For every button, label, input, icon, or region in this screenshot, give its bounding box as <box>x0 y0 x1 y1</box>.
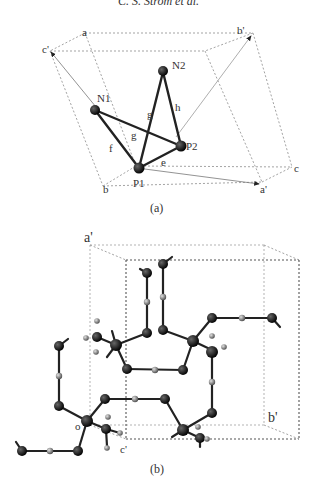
atom <box>100 394 110 404</box>
bond-e <box>139 146 181 168</box>
axis-label-a-prime-b: a' <box>84 230 93 245</box>
bond-label-h: h <box>175 101 181 113</box>
label-n2: N2 <box>172 59 185 71</box>
atom <box>105 414 111 420</box>
atom <box>73 446 83 456</box>
atom <box>54 341 64 351</box>
atom <box>158 325 168 335</box>
figure: N1 N2 P1 P2 f g g h e a c' b' a' b c (a) <box>0 0 317 498</box>
label-p2: P2 <box>186 140 198 152</box>
atom <box>177 424 189 436</box>
atom-p1 <box>134 163 145 174</box>
atom <box>239 315 245 321</box>
cell-edge <box>50 51 103 186</box>
bonds-b <box>16 257 280 451</box>
origin-label: o <box>75 420 81 432</box>
axis-label-c-prime: c' <box>42 43 49 55</box>
atom <box>209 333 215 339</box>
atom <box>56 373 62 379</box>
panel-b: a' b' c' o (b) <box>16 230 299 476</box>
label-p1: P1 <box>133 177 145 189</box>
cell-edge <box>205 33 253 51</box>
atom <box>142 328 152 338</box>
axis-arrow-c <box>51 52 96 107</box>
atom <box>117 430 123 436</box>
atom <box>160 294 166 300</box>
atom <box>47 448 53 454</box>
atom <box>144 299 150 305</box>
atom <box>221 344 227 350</box>
atom <box>81 415 93 427</box>
bond-g-n2-p1 <box>139 72 163 168</box>
bond-label-e: e <box>161 156 166 168</box>
atom <box>93 349 99 355</box>
bond-label-g1: g <box>147 108 153 120</box>
cell-edge <box>90 245 126 260</box>
atom <box>142 268 152 278</box>
panel-a: N1 N2 P1 P2 f g g h e a c' b' a' b c (a) <box>42 24 299 215</box>
atom <box>206 346 218 358</box>
atom <box>110 339 122 351</box>
bonds-a <box>95 72 181 168</box>
caption-a: (a) <box>150 201 163 215</box>
axis-label-b: b <box>103 183 109 195</box>
bond-label-f: f <box>109 142 113 154</box>
atom-p2 <box>176 141 187 152</box>
cell-edge <box>50 33 85 51</box>
atom <box>54 401 64 411</box>
cell-edge <box>262 167 292 182</box>
axis-arrow-a <box>137 168 259 184</box>
axis-label-c-prime-b: c' <box>120 443 127 455</box>
atom <box>92 332 102 342</box>
atom <box>152 367 158 373</box>
axis-label-b-prime-b: b' <box>268 410 278 425</box>
atom <box>178 365 188 375</box>
atom <box>207 313 217 323</box>
atom <box>204 436 210 442</box>
cell-edge <box>264 245 299 260</box>
atom <box>195 433 205 443</box>
caption-b: (b) <box>150 462 164 476</box>
cell-edge <box>205 51 262 182</box>
atom <box>132 396 138 402</box>
atom <box>195 424 201 430</box>
axis-label-b-prime: b' <box>237 24 245 36</box>
atom-n1 <box>90 105 100 115</box>
cell-edge <box>264 425 299 439</box>
axis-label-a-prime: a' <box>260 183 267 195</box>
atom <box>83 335 89 341</box>
cell-edge <box>103 182 262 186</box>
atom <box>267 313 277 323</box>
atom <box>122 364 132 374</box>
atom <box>158 259 168 269</box>
atom <box>160 394 170 404</box>
atom <box>209 379 215 385</box>
atom <box>104 445 110 451</box>
atom <box>94 318 100 324</box>
label-n1: N1 <box>97 92 110 104</box>
atom <box>207 408 217 418</box>
atom <box>187 335 199 347</box>
atom <box>101 424 111 434</box>
axis-label-c: c <box>294 162 299 174</box>
atom-n2 <box>158 66 168 76</box>
cell-edge <box>253 33 292 167</box>
axis-label-a: a <box>82 26 87 38</box>
cell-edge <box>136 166 292 167</box>
atom <box>17 446 27 456</box>
bond-label-g2: g <box>131 129 137 141</box>
